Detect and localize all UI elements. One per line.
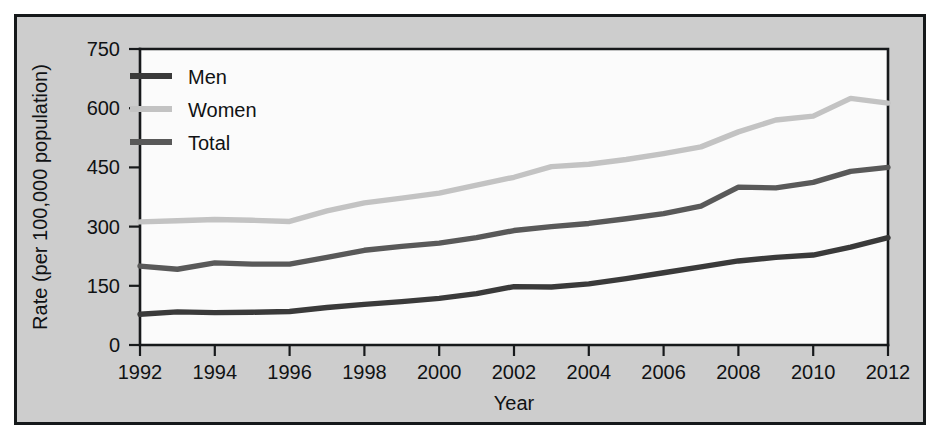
x-tick-label: 2000 <box>417 361 462 383</box>
legend-label-women: Women <box>188 99 257 121</box>
x-tick-label: 1998 <box>342 361 387 383</box>
legend-label-total: Total <box>188 132 230 154</box>
y-axis-tick-labels: 0150300450600750 <box>87 38 120 356</box>
y-tick-label: 750 <box>87 38 120 60</box>
plot-area <box>140 49 888 345</box>
plot-background <box>140 49 888 345</box>
x-tick-label: 2004 <box>567 361 612 383</box>
x-axis-title: Year <box>494 392 535 414</box>
x-tick-label: 1996 <box>267 361 312 383</box>
legend-label-men: Men <box>188 66 227 88</box>
y-tick-label: 300 <box>87 216 120 238</box>
x-tick-label: 2008 <box>716 361 761 383</box>
x-tick-label: 2012 <box>866 361 911 383</box>
x-tick-label: 2006 <box>641 361 686 383</box>
x-tick-label: 2002 <box>492 361 537 383</box>
x-tick-label: 1992 <box>118 361 163 383</box>
x-axis-tick-labels: 1992199419961998200020022004200620082010… <box>118 361 911 383</box>
line-chart: 0150300450600750 19921994199619982000200… <box>0 0 948 439</box>
y-axis-title: Rate (per 100,000 population) <box>29 64 51 330</box>
chart-figure: 0150300450600750 19921994199619982000200… <box>0 0 948 439</box>
y-tick-label: 600 <box>87 97 120 119</box>
y-tick-label: 150 <box>87 275 120 297</box>
y-tick-label: 0 <box>109 334 120 356</box>
y-tick-label: 450 <box>87 156 120 178</box>
x-tick-label: 1994 <box>193 361 238 383</box>
x-tick-label: 2010 <box>791 361 836 383</box>
